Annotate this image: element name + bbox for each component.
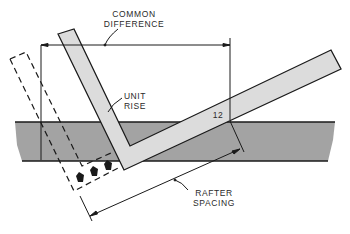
unit-rise-line-2: RISE: [118, 101, 152, 111]
common-difference-line-2: DIFFERENCE: [94, 19, 174, 29]
move-direction-arrows: [76, 160, 112, 182]
unit-rise-line-1: UNIT: [118, 91, 152, 101]
rafter-spacing-label: RAFTER SPACING: [186, 188, 242, 208]
rafter-layout-diagram: [0, 0, 350, 234]
unit-rise-label: UNIT RISE: [118, 91, 152, 111]
rafter-spacing-line-2: SPACING: [186, 198, 242, 208]
common-difference-label: COMMON DIFFERENCE: [94, 9, 174, 29]
rafter-spacing-line-1: RAFTER: [186, 188, 242, 198]
common-difference-line-1: COMMON: [94, 9, 174, 19]
twelve-label: 12: [209, 110, 227, 120]
